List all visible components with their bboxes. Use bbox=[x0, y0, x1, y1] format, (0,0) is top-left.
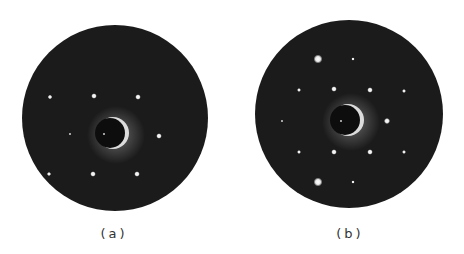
diffraction-spot bbox=[314, 178, 323, 187]
diffraction-spot bbox=[367, 149, 373, 155]
panel-a-label: (a) bbox=[100, 226, 127, 241]
diffraction-spot bbox=[103, 133, 105, 135]
diffraction-figure bbox=[0, 0, 464, 254]
diffraction-spot bbox=[48, 95, 52, 99]
diffraction-spot bbox=[91, 93, 97, 99]
diffraction-spot bbox=[340, 120, 342, 122]
electron-gun-shadow bbox=[330, 105, 360, 135]
diffraction-spot bbox=[402, 150, 406, 154]
diffraction-spot bbox=[384, 118, 390, 124]
panel-b-label: (b) bbox=[336, 226, 363, 241]
diffraction-spot bbox=[351, 180, 354, 183]
diffraction-spot bbox=[47, 172, 51, 176]
diffraction-spot bbox=[135, 94, 141, 100]
diffraction-spot bbox=[69, 133, 71, 135]
diffraction-spot bbox=[297, 150, 301, 154]
diffraction-spot bbox=[156, 133, 162, 139]
diffraction-spot bbox=[297, 88, 301, 92]
diffraction-spot bbox=[314, 55, 323, 64]
diffraction-spot bbox=[281, 120, 283, 122]
diffraction-panel-b bbox=[255, 20, 443, 208]
diffraction-spot bbox=[402, 89, 406, 93]
diffraction-spot bbox=[351, 57, 354, 60]
diffraction-spot bbox=[134, 171, 140, 177]
diffraction-panel-a bbox=[22, 25, 208, 211]
diffraction-spot bbox=[90, 171, 96, 177]
diffraction-spot bbox=[331, 149, 337, 155]
diffraction-spot bbox=[367, 87, 373, 93]
diffraction-spot bbox=[331, 86, 337, 92]
electron-gun-shadow bbox=[95, 118, 125, 148]
